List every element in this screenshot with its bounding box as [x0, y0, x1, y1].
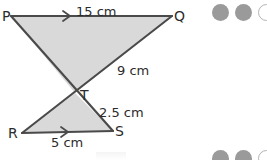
- dot-filled-icon: [212, 150, 229, 160]
- vertex-label-t: T: [80, 88, 89, 102]
- vertex-label-q: Q: [174, 9, 185, 23]
- triangle-pqt-shape: [11, 16, 172, 93]
- measurement-label-ts: 2.5 cm: [99, 106, 144, 119]
- vertex-label-r: R: [8, 126, 18, 140]
- dot-filled-icon: [235, 150, 252, 160]
- dot-hollow-icon: [258, 150, 267, 160]
- dot-hollow-icon: [258, 4, 267, 21]
- geometry-figure-canvas: P Q T R S 15 cm 9 cm 2.5 cm 5 cm: [0, 0, 267, 160]
- measurement-label-rs: 5 cm: [51, 136, 83, 149]
- decorative-dots-top-right: [212, 4, 267, 21]
- measurement-label-pq: 15 cm: [76, 5, 117, 18]
- dot-filled-icon: [212, 4, 229, 21]
- cropped-text-fragment: [96, 152, 126, 160]
- decorative-dots-bottom-right: [212, 150, 267, 160]
- measurement-label-qt: 9 cm: [117, 64, 149, 77]
- vertex-label-s: S: [115, 124, 124, 138]
- geometry-diagram-svg: [0, 0, 267, 160]
- dot-filled-icon: [235, 4, 252, 21]
- vertex-label-p: P: [2, 9, 10, 23]
